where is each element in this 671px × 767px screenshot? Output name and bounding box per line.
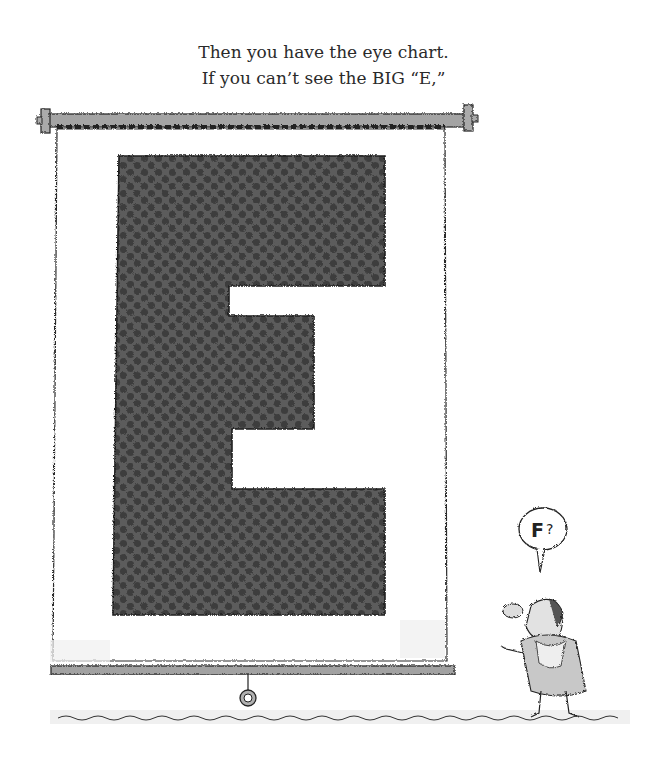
pull-ring xyxy=(240,674,256,706)
ground-scribble xyxy=(50,710,630,724)
question-mark: ? xyxy=(546,521,553,537)
eye-chart-illustration: F ? xyxy=(0,0,671,767)
speech-bubble-text: F xyxy=(531,519,544,541)
bottom-bar xyxy=(50,665,454,674)
little-man-character xyxy=(500,598,585,716)
top-roller-bar xyxy=(36,104,477,132)
